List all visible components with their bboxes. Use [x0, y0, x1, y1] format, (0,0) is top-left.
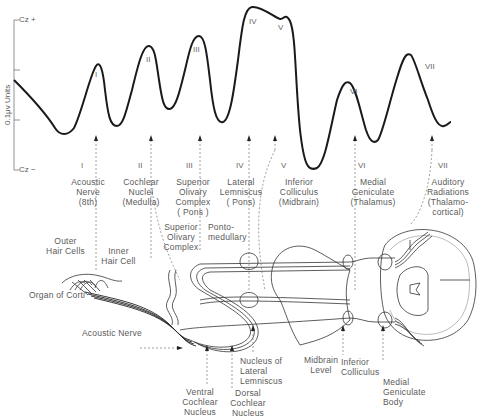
y-axis — [14, 20, 20, 170]
label-dorsal-cochlear-nucleus: Dorsal Cochlear Nucleus — [222, 388, 274, 417]
label-midbrain-level: Midbrain Level — [296, 355, 346, 375]
label-outer-hair-cells: Outer Hair Cells — [38, 236, 93, 256]
label-acoustic-nerve: Acoustic Nerve — [82, 328, 142, 338]
component-numeral-i: I — [81, 161, 83, 170]
component-label-auditory-radiations: Auditory Radiations (Thalamo- cortical) — [412, 177, 484, 217]
component-label-medial-geniculate: Medial Geniculate (Thalamus) — [340, 177, 406, 207]
component-label-inferior-colliculus: Inferior Colliculus (Midbrain) — [266, 177, 332, 207]
component-numeral-vi: VI — [358, 161, 366, 170]
axis-top-label: Cz + — [19, 15, 36, 24]
peak-label-vi: VI — [350, 87, 358, 96]
label-inferior-colliculus: Inferior Colliculus — [341, 357, 379, 377]
label-medial-geniculate-body: Medial Geniculate Body — [383, 377, 426, 407]
label-organ-of-corti: Organ of Corti — [29, 290, 85, 300]
label-superior-olivary-complex: Superior Olivary Complex — [148, 222, 214, 252]
label-nucleus-lateral-lemniscus: Nucleus of Lateral Lemniscus — [240, 356, 282, 386]
component-numeral-ii: II — [138, 161, 142, 170]
y-axis-label: 0.1μv Units — [3, 85, 12, 125]
component-numeral-iii: III — [186, 161, 193, 170]
component-label-lateral-lemniscus: Lateral Lemniscus ( Pons) — [208, 177, 274, 207]
component-numeral-v: V — [281, 161, 286, 170]
label-ventral-cochlear-nucleus: Ventral Cochlear Nucleus — [175, 387, 225, 417]
peak-label-iv: IV — [249, 17, 257, 26]
peak-label-v: V — [278, 23, 283, 32]
component-numeral-vii: VII — [438, 161, 448, 170]
component-numeral-iv: IV — [236, 161, 244, 170]
brainstem-pathways — [166, 246, 395, 352]
peak-label-vii: VII — [425, 62, 435, 71]
peak-label-i: I — [95, 70, 97, 79]
label-pontomedullary: Ponto- medullary — [208, 222, 247, 242]
label-inner-hair-cell: Inner Hair Cell — [96, 246, 141, 266]
peak-label-ii: II — [146, 55, 150, 64]
brain-coronal-section — [378, 230, 476, 346]
axis-bottom-label: Cz − — [19, 165, 36, 174]
arrow-heads — [94, 135, 434, 141]
peak-label-iii: III — [193, 45, 200, 54]
abr-waveform — [14, 7, 451, 169]
